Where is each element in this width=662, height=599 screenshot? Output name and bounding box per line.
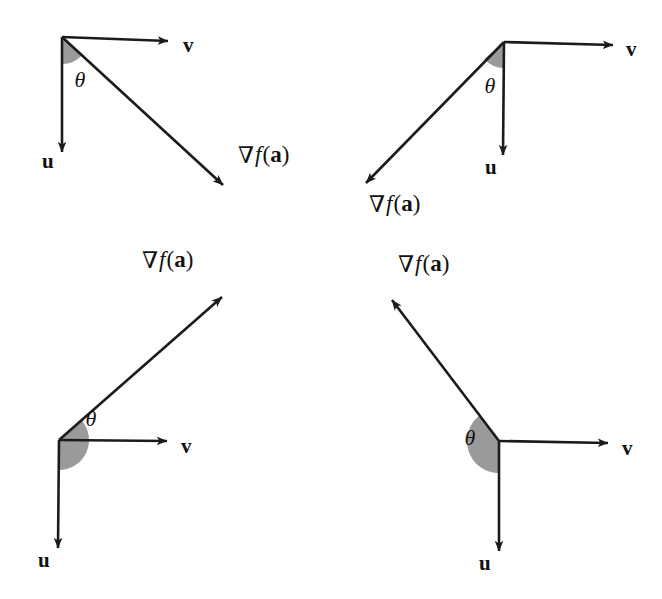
gradient-a: a [430,251,442,276]
gradient-close-paren: ) [442,251,450,276]
vector-v-arrow [62,37,168,41]
gradient-close-paren: ) [282,142,290,167]
vector-gradient-arrow [59,297,222,440]
vector-v-arrow [504,42,613,45]
gradient-label: ∇f(a) [238,142,289,168]
theta-label: θ [485,73,496,98]
gradient-label: ∇f(a) [369,191,420,217]
gradient-close-paren: ) [186,247,194,272]
gradient-a: a [401,191,413,216]
gradient-open-paren: ( [262,142,270,167]
gradient-open-paren: ( [422,251,430,276]
theta-label: θ [75,67,86,92]
nabla-icon: ∇ [398,251,414,277]
gradient-a: a [174,247,186,272]
vector-v-label: v [626,37,637,61]
vector-u-label: u [38,548,50,572]
nabla-icon: ∇ [142,247,158,273]
gradient-a: a [270,142,282,167]
vector-u-arrow [58,440,59,548]
vector-v-label: v [181,434,192,458]
vector-u-label: u [485,155,497,179]
theta-label: θ [86,406,97,431]
nabla-icon: ∇ [238,142,254,168]
vector-v-label: v [622,436,633,460]
gradient-label: ∇f(a) [142,247,193,273]
vector-v-label: v [183,33,194,57]
vector-gradient-arrow [62,37,223,185]
vector-u-label: u [479,551,491,575]
gradient-label: ∇f(a) [398,251,449,277]
gradient-open-paren: ( [166,247,174,272]
vector-v-arrow [499,441,608,443]
panel-top-left: v u θ ∇f(a) [42,33,289,185]
theta-label: θ [465,425,476,450]
vector-angle-figure: v u θ ∇f(a) v u θ ∇f(a) v [0,0,662,599]
gradient-close-paren: ) [413,191,421,216]
diagram-canvas: v u θ ∇f(a) v u θ ∇f(a) v [0,0,662,599]
panel-top-right: v u θ ∇f(a) [366,37,637,217]
vector-u-label: u [42,149,54,173]
vector-gradient-arrow [366,42,504,183]
gradient-open-paren: ( [393,191,401,216]
nabla-icon: ∇ [369,191,385,217]
vector-v-arrow [59,440,167,441]
vector-gradient-arrow [392,300,499,441]
panel-bottom-left: v u θ ∇f(a) [38,247,222,572]
panel-bottom-right: v u θ ∇f(a) [392,251,633,575]
vector-u-arrow [503,42,504,155]
